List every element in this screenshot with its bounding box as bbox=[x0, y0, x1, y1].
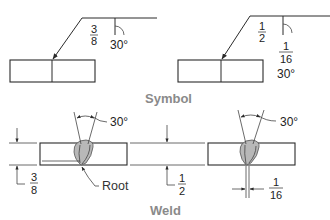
angle-arc-icon bbox=[283, 24, 292, 33]
weld-middle-thickness: 1 2 bbox=[130, 125, 205, 197]
svg-text:1: 1 bbox=[273, 176, 279, 188]
groove-angle-label: 30° bbox=[110, 115, 128, 129]
root-opening-fraction: 1 16 bbox=[279, 40, 293, 65]
angle-arc-icon bbox=[77, 116, 94, 118]
weld-right: 30° 1 16 bbox=[208, 110, 298, 201]
thickness-fraction: 1 2 bbox=[178, 172, 186, 197]
groove-line bbox=[238, 110, 246, 144]
root-label: Root bbox=[102, 179, 129, 193]
arrow-leader bbox=[53, 18, 82, 59]
weld-caption: Weld bbox=[150, 203, 181, 218]
angle-arc-icon bbox=[241, 115, 260, 117]
svg-text:16: 16 bbox=[270, 189, 282, 201]
thickness-fraction: 3 8 bbox=[30, 171, 38, 196]
root-opening-fraction: 1 16 bbox=[269, 176, 283, 201]
symbol-caption: Symbol bbox=[145, 91, 192, 106]
groove-angle-label: 30° bbox=[277, 67, 295, 81]
svg-text:1: 1 bbox=[179, 172, 185, 184]
svg-text:8: 8 bbox=[91, 35, 97, 47]
svg-text:8: 8 bbox=[31, 184, 37, 196]
symbol-right: 1 2 1 16 30° bbox=[178, 16, 330, 82]
svg-text:2: 2 bbox=[259, 32, 265, 44]
symbol-left: 3 8 30° bbox=[10, 18, 157, 82]
dimension-arrow-bottom bbox=[167, 166, 175, 185]
welding-symbol-diagram: 3 8 30° 1 2 1 16 30° Symbol bbox=[0, 0, 330, 220]
groove-angle-label: 30° bbox=[110, 38, 128, 52]
weld-left: 3 8 30° Root bbox=[9, 112, 129, 196]
dimension-arrow-bottom bbox=[17, 166, 25, 184]
root-leader bbox=[82, 167, 99, 186]
angle-arc-icon bbox=[115, 26, 124, 35]
groove-angle-label: 30° bbox=[280, 115, 298, 129]
svg-text:1: 1 bbox=[283, 40, 289, 52]
svg-text:16: 16 bbox=[280, 53, 292, 65]
svg-text:3: 3 bbox=[31, 171, 37, 183]
groove-depth-fraction: 3 8 bbox=[90, 23, 98, 47]
svg-text:2: 2 bbox=[179, 185, 185, 197]
groove-depth-fraction: 1 2 bbox=[258, 20, 266, 44]
arrow-leader bbox=[222, 16, 250, 59]
svg-text:3: 3 bbox=[91, 23, 97, 35]
svg-text:1: 1 bbox=[259, 20, 265, 32]
